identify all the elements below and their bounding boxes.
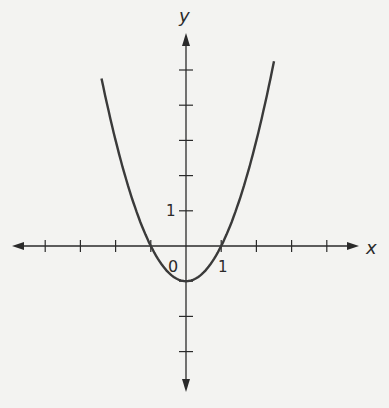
axes <box>12 33 359 392</box>
x-axis-left-arrow-icon <box>12 242 24 250</box>
parabola-plot: x y 0 1 1 <box>0 0 389 408</box>
x-axis-label: x <box>365 237 377 258</box>
y-unit-label: 1 <box>166 202 176 220</box>
graph-figure: x y 0 1 1 <box>0 0 389 408</box>
y-axis-up-arrow-icon <box>182 33 190 46</box>
y-axis-label: y <box>178 5 190 26</box>
y-axis-down-arrow-icon <box>182 379 190 392</box>
origin-label: 0 <box>168 257 178 276</box>
parabola-curve <box>102 61 275 281</box>
x-axis-right-arrow-icon <box>347 242 359 250</box>
x-unit-label: 1 <box>218 258 228 276</box>
